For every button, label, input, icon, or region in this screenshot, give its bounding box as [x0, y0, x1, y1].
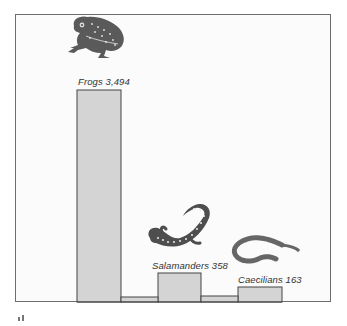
gap-step-2	[201, 296, 238, 302]
label-frogs: Frogs 3,494	[78, 76, 130, 87]
caecilian-icon	[234, 238, 299, 261]
bar-frogs	[77, 90, 121, 302]
bar-caecilians	[238, 287, 282, 302]
salamander-icon	[148, 204, 209, 247]
label-salamanders: Salamanders 358	[152, 260, 228, 271]
frog-icon	[68, 16, 124, 58]
bar-salamanders	[158, 273, 201, 302]
label-caecilians: Caecilians 163	[238, 274, 302, 285]
gap-step-1	[121, 297, 158, 302]
corner-mark-icon	[17, 312, 27, 322]
